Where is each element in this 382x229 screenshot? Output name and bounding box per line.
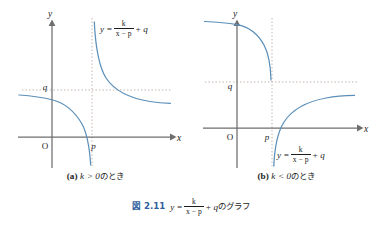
equation-fraction-a: kx − p <box>114 20 134 38</box>
p-label-a: p <box>90 141 96 151</box>
panel-caption-jp-a: のとき <box>100 171 124 181</box>
equation-label-a: y =kx − p+ q <box>100 20 148 38</box>
figure-caption-numerator: k <box>184 198 204 206</box>
y-axis-arrow-a <box>49 20 56 27</box>
y-axis-label-b: y <box>232 9 238 19</box>
graph-plot-a: y x O p q <box>0 0 191 170</box>
figure-caption-fraction: kx − p <box>184 198 204 216</box>
panel-caption-tag-b: (b) <box>257 171 269 181</box>
figure-caption-suffix: + q <box>205 202 218 212</box>
panel-caption-b: (b) k < 0のとき <box>191 170 382 182</box>
equation-label-b: y =kx − p+ q <box>277 146 325 164</box>
panel-caption-math-b: k < 0 <box>271 171 291 181</box>
equation-lhs-b: y = <box>277 150 289 160</box>
panel-caption-tag-a: (a) <box>67 171 78 181</box>
q-label-b: q <box>228 81 233 91</box>
equation-numerator-b: k <box>291 146 311 154</box>
curve-branch-left-b <box>205 22 272 81</box>
equation-suffix-a: + q <box>135 24 148 34</box>
q-label-a: q <box>43 82 48 92</box>
origin-label-b: O <box>227 132 234 142</box>
figure-panel-b: y x O p q y =kx − p+ q (b) k < 0のとき <box>191 0 382 200</box>
y-axis-label-a: y <box>47 9 53 19</box>
figure-number: 図 2.11 <box>132 201 165 211</box>
figure-caption-denominator: x − p <box>184 208 204 216</box>
equation-fraction-b: kx − p <box>291 146 311 164</box>
figure-caption-prefix: y = <box>170 202 182 212</box>
panel-caption-a: (a) k > 0のとき <box>0 170 191 182</box>
panel-caption-jp-b: のとき <box>291 171 315 181</box>
x-axis-arrow-a <box>170 134 177 141</box>
equation-numerator-a: k <box>114 20 134 28</box>
p-label-b: p <box>264 132 270 142</box>
figure-caption: 図 2.11y =kx − p+ qのグラフ <box>0 198 382 216</box>
x-axis-label-a: x <box>176 133 182 143</box>
equation-denominator-b: x − p <box>291 156 311 164</box>
curve-branch-left-a <box>19 95 91 165</box>
panel-caption-math-a: k > 0 <box>80 171 100 181</box>
equation-denominator-a: x − p <box>114 30 134 38</box>
equation-lhs-a: y = <box>100 24 112 34</box>
figure-caption-jp-tail: のグラフ <box>218 201 250 211</box>
equation-suffix-b: + q <box>312 150 325 160</box>
x-axis-arrow-b <box>357 125 364 132</box>
origin-label-a: O <box>42 141 49 151</box>
figure-panel-a: y x O p q y =kx − p+ q (a) k > 0のとき <box>0 0 191 200</box>
x-axis-label-b: x <box>363 124 369 134</box>
graph-plot-b: y x O p q <box>191 0 382 170</box>
figure-2-11: y x O p q y =kx − p+ q (a) k > 0のとき <box>0 0 382 229</box>
